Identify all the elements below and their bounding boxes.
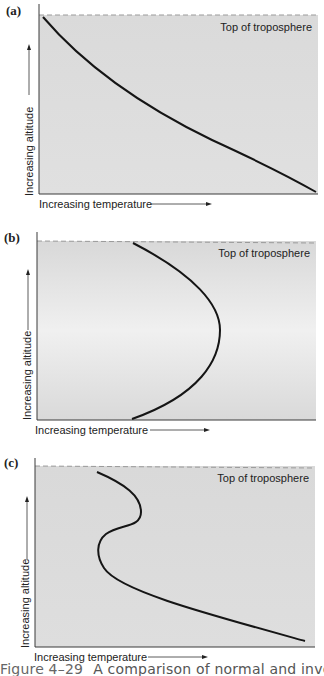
panel-c: (c) Top of troposphere Increasing temper… <box>0 0 324 676</box>
chart-c: Top of troposphere Increasing temperatur… <box>0 0 324 676</box>
plot-area-c <box>35 466 315 647</box>
y-arrowhead-c <box>25 496 29 502</box>
caption-text: A comparison of normal and inverted laps <box>93 661 324 676</box>
figure-caption: Figure 4–29A comparison of normal and in… <box>0 661 324 676</box>
y-axis-label-c: Increasing altitude <box>19 559 31 648</box>
x-arrowhead-c <box>202 655 208 659</box>
troposphere-label-c: Top of troposphere <box>217 472 309 484</box>
caption-number: Figure 4–29 <box>0 661 83 676</box>
